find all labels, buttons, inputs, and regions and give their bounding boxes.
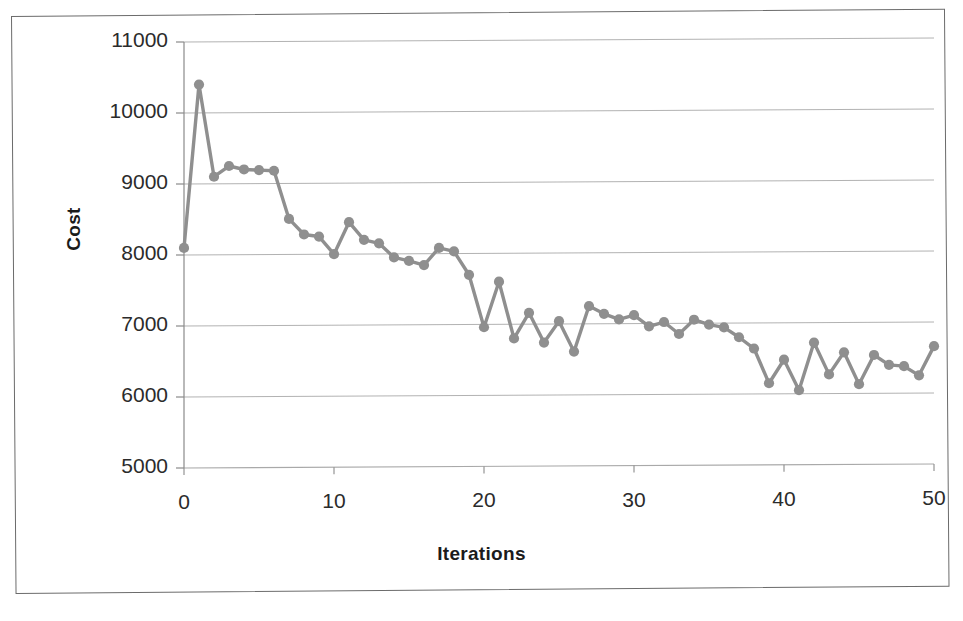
data-point-41 bbox=[794, 385, 804, 395]
gridlines-group bbox=[184, 38, 934, 468]
data-point-26 bbox=[569, 347, 579, 357]
y-tick-label-11000: 11000 bbox=[72, 28, 168, 52]
data-point-9 bbox=[314, 231, 324, 241]
chart-page: 500060007000800090001000011000 010203040… bbox=[0, 0, 963, 621]
gridline-10000 bbox=[184, 109, 934, 113]
data-point-8 bbox=[299, 229, 309, 239]
data-point-24 bbox=[539, 337, 549, 347]
data-point-2 bbox=[209, 172, 219, 182]
data-point-19 bbox=[464, 270, 474, 280]
data-point-44 bbox=[839, 347, 849, 357]
data-point-37 bbox=[734, 332, 744, 342]
y-tick-label-5000: 5000 bbox=[72, 454, 168, 478]
data-point-22 bbox=[509, 333, 519, 343]
data-point-30 bbox=[629, 310, 639, 320]
data-point-11 bbox=[344, 217, 354, 227]
data-point-42 bbox=[809, 337, 819, 347]
data-point-49 bbox=[914, 370, 924, 380]
cost-line-path bbox=[184, 85, 934, 391]
data-point-17 bbox=[434, 243, 444, 253]
data-point-48 bbox=[899, 361, 909, 371]
data-point-34 bbox=[689, 315, 699, 325]
data-point-13 bbox=[374, 238, 384, 248]
x-tick-label-40: 40 bbox=[754, 487, 814, 511]
gridline-11000 bbox=[184, 38, 934, 42]
data-point-6 bbox=[269, 166, 279, 176]
x-tick-label-30: 30 bbox=[604, 488, 664, 512]
data-point-50 bbox=[929, 341, 939, 351]
tickmarks-group bbox=[176, 42, 934, 475]
series-line-cost bbox=[184, 85, 934, 391]
data-point-1 bbox=[194, 79, 204, 89]
data-point-21 bbox=[494, 277, 504, 287]
data-point-4 bbox=[239, 164, 249, 174]
x-tick-label-20: 20 bbox=[454, 488, 514, 512]
data-point-7 bbox=[284, 214, 294, 224]
data-point-39 bbox=[764, 378, 774, 388]
x-tick-label-10: 10 bbox=[304, 489, 364, 513]
data-point-40 bbox=[779, 355, 789, 365]
data-point-5 bbox=[254, 165, 264, 175]
x-tick-label-0: 0 bbox=[154, 490, 214, 514]
data-point-27 bbox=[584, 301, 594, 311]
data-point-14 bbox=[389, 252, 399, 262]
data-point-0 bbox=[179, 243, 189, 253]
data-point-28 bbox=[599, 309, 609, 319]
y-axis-title: Cost bbox=[63, 189, 85, 269]
data-point-18 bbox=[449, 246, 459, 256]
data-point-23 bbox=[524, 308, 534, 318]
data-point-16 bbox=[419, 260, 429, 270]
gridline-6000 bbox=[184, 393, 934, 397]
data-point-38 bbox=[749, 343, 759, 353]
data-point-43 bbox=[824, 369, 834, 379]
data-point-20 bbox=[479, 322, 489, 332]
data-point-25 bbox=[554, 316, 564, 326]
plot-canvas bbox=[0, 0, 963, 621]
gridline-5000 bbox=[184, 464, 934, 468]
x-tick-label-50: 50 bbox=[904, 486, 963, 510]
data-point-31 bbox=[644, 321, 654, 331]
gridline-8000 bbox=[184, 251, 934, 255]
data-point-3 bbox=[224, 161, 234, 171]
data-point-46 bbox=[869, 350, 879, 360]
data-point-32 bbox=[659, 317, 669, 327]
line-chart: 500060007000800090001000011000 010203040… bbox=[0, 0, 963, 621]
data-point-36 bbox=[719, 322, 729, 332]
y-tick-label-6000: 6000 bbox=[72, 383, 168, 407]
x-axis-title: Iterations bbox=[0, 543, 963, 565]
y-tick-label-10000: 10000 bbox=[72, 99, 168, 123]
series-markers-cost bbox=[179, 79, 939, 395]
y-tick-label-8000: 8000 bbox=[72, 241, 168, 265]
data-point-10 bbox=[329, 249, 339, 259]
y-tick-label-7000: 7000 bbox=[72, 312, 168, 336]
data-point-12 bbox=[359, 235, 369, 245]
gridline-9000 bbox=[184, 180, 934, 184]
data-point-35 bbox=[704, 320, 714, 330]
data-point-47 bbox=[884, 360, 894, 370]
y-tick-label-9000: 9000 bbox=[72, 170, 168, 194]
data-point-15 bbox=[404, 256, 414, 266]
data-point-29 bbox=[614, 314, 624, 324]
data-point-33 bbox=[674, 329, 684, 339]
data-point-45 bbox=[854, 379, 864, 389]
